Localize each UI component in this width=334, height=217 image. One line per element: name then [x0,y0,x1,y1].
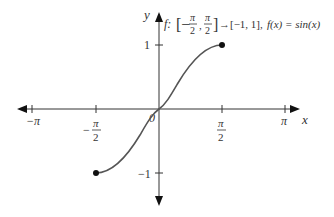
svg-text:2: 2 [218,131,224,143]
svg-text:2: 2 [93,131,99,143]
y-axis-label: y [142,7,150,22]
x-axis-right-arrow-icon [290,105,300,113]
x-tick-label-neg-pi: −π [26,114,41,128]
svg-text:π: π [205,12,211,23]
x-tick-label-neg-pi-over-2: − π 2 [83,117,101,143]
y-tick-label-1: 1 [144,38,150,52]
left-endpoint-dot [93,170,99,176]
svg-text:[−: [− [176,16,190,33]
svg-text:2: 2 [190,25,195,36]
svg-text:f:: f: [164,17,171,31]
x-tick-label-pi-over-2: π 2 [217,117,226,143]
svg-text:π: π [93,117,99,129]
y-axis-up-arrow-icon [155,12,163,22]
x-axis-label: x [301,112,308,127]
svg-text:π: π [190,12,196,23]
svg-text:→[−1, 1],: →[−1, 1], [219,18,263,30]
svg-text:,: , [199,19,202,31]
right-endpoint-dot [219,42,225,48]
svg-text:2: 2 [205,25,210,36]
svg-text:−: − [83,123,90,137]
svg-text:π: π [218,117,224,129]
sine-graph: −π − π 2 π 2 π x y 0 1 −1 f: [− π 2 , π … [0,0,334,217]
svg-text:]: ] [213,16,218,33]
chart-title: f: [− π 2 , π 2 ] →[−1, 1], f(x) = sin(x… [164,12,321,36]
x-axis-left-arrow-icon [17,105,27,113]
svg-text:f(x) = sin(x): f(x) = sin(x) [267,18,321,31]
x-tick-label-pi: π [281,114,288,128]
y-axis-down-arrow-icon [155,196,163,206]
y-tick-label-neg-1: −1 [138,167,151,181]
